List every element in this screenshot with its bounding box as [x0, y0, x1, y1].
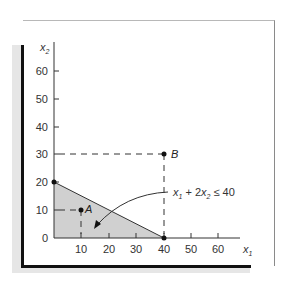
x-tick-50: 50: [185, 243, 197, 255]
point-b: [162, 152, 167, 157]
y-tick-0: 0: [42, 232, 48, 244]
point-a: [79, 208, 84, 213]
y-tick-30: 30: [36, 148, 48, 160]
constraint-label: x1 + 2x2 ≤ 40: [172, 186, 235, 200]
y-tick-10: 10: [36, 204, 48, 216]
point-b-label: B: [171, 148, 178, 160]
y-tick-50: 50: [36, 93, 48, 105]
chart-plot: 60 50 40 30 20 10 0 10 20 30 40 50 60 x2…: [0, 0, 288, 283]
x-tick-60: 60: [212, 243, 224, 255]
y-axis-label: x2: [39, 41, 50, 55]
x-tick-20: 20: [103, 243, 115, 255]
x-axis-label: x1: [242, 243, 253, 257]
x-tick-40: 40: [158, 243, 170, 255]
x-tick-30: 30: [130, 243, 142, 255]
y-tick-20: 20: [36, 176, 48, 188]
y-tick-40: 40: [36, 121, 48, 133]
y-tick-60: 60: [36, 65, 48, 77]
point-a-label: A: [84, 203, 92, 215]
point-intercept-x: [162, 236, 167, 241]
point-intercept-y: [52, 180, 57, 185]
x-tick-10: 10: [75, 243, 87, 255]
